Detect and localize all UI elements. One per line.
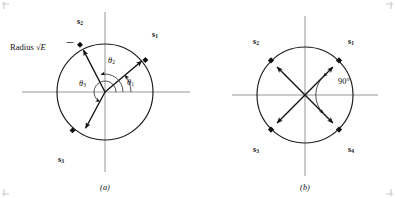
label-theta3: θ3	[79, 79, 86, 89]
radius-label-text: Radius	[10, 42, 35, 52]
label-theta1: θ1	[127, 78, 134, 88]
panel-a-vector-labels: s1 s2 s3	[58, 17, 158, 165]
label-s2: s2	[253, 37, 259, 47]
vector-s3-endpoint	[70, 127, 76, 133]
vector-s1-endpoint	[336, 57, 342, 63]
radius-label-energy: E	[40, 42, 47, 52]
panel-a: Radius√E s1	[10, 12, 190, 192]
vector-s1	[305, 67, 333, 95]
vector-s1	[105, 61, 142, 92]
panel-a-angle-arcs	[94, 74, 131, 102]
label-s3: s3	[58, 155, 64, 165]
vector-s2-endpoint	[268, 57, 274, 63]
radius-label-group: Radius√E	[10, 42, 74, 52]
panel-a-angle-labels: θ1 θ2 θ3	[79, 56, 134, 89]
label-s4: s4	[348, 145, 354, 155]
svg-text:Radius√E: Radius√E	[10, 42, 47, 52]
vector-s4-endpoint	[336, 126, 342, 132]
vector-s2-endpoint	[77, 42, 83, 48]
caption-panel-b: (b)	[300, 183, 310, 192]
label-theta2: θ2	[108, 56, 115, 66]
vector-s1-endpoint	[142, 57, 148, 63]
label-s1: s1	[152, 30, 158, 40]
panel-b: 90° s1 s2 s3 s4 (b)	[232, 16, 378, 192]
caption-panel-a: (a)	[100, 183, 110, 192]
corner-registration-marks	[2, 2, 393, 196]
vector-s4	[305, 95, 333, 123]
label-s2: s2	[77, 17, 83, 27]
label-s1: s1	[348, 37, 354, 47]
vector-s2	[83, 50, 105, 92]
vector-s2	[277, 67, 305, 95]
figure-container: Radius√E s1	[0, 0, 395, 198]
label-s3: s3	[253, 145, 259, 155]
label-90-degrees: 90°	[338, 77, 350, 86]
vector-s3	[277, 95, 305, 123]
vector-s3-endpoint	[268, 126, 274, 132]
signal-constellation-figure: Radius√E s1	[0, 0, 395, 198]
